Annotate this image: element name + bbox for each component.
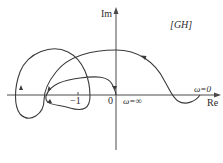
- nyquist-curve: [16, 49, 201, 118]
- omega-infinity-label: ω=∞: [123, 96, 142, 106]
- minus-one-label: −1: [70, 95, 81, 106]
- curve-arrow-icon: [19, 85, 23, 90]
- function-label: [GH]: [170, 19, 192, 30]
- nyquist-diagram: Im [GH] −1 0 ω=∞ ω=0 Re: [0, 0, 223, 163]
- imag-axis-label: Im: [101, 8, 112, 19]
- omega-zero-label: ω=0: [194, 84, 211, 94]
- real-axis-label: Re: [207, 97, 219, 108]
- imag-axis: [114, 7, 119, 150]
- origin-label: 0: [108, 95, 113, 106]
- imag-axis-arrow-icon: [114, 7, 119, 14]
- curve-arrow-icon: [47, 99, 52, 103]
- real-axis: [7, 93, 221, 98]
